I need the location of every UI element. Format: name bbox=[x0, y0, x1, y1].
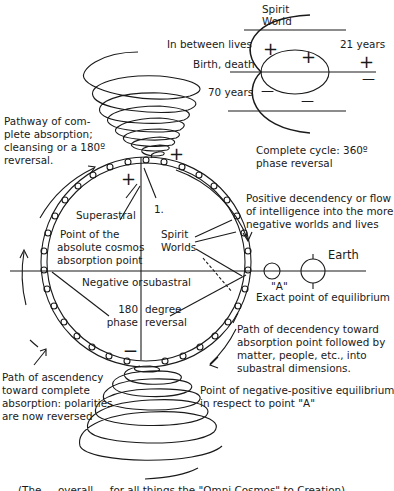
label-positive-decendency-2: of intelligence into the more bbox=[246, 205, 393, 218]
label-in-between-lives: In between lives bbox=[167, 38, 252, 51]
label-reversal: reversal bbox=[145, 316, 187, 329]
label-positive-decendency-3: negative worlds and lives bbox=[246, 218, 379, 231]
label-absolute-point-3: absorption point bbox=[57, 254, 142, 267]
label-subastral: subastral bbox=[143, 276, 191, 289]
label-path-ascendency-4: are now reversed bbox=[2, 410, 93, 423]
inset-life-cycle bbox=[228, 15, 376, 133]
label-path-decendency-1: Path of decendency toward bbox=[237, 323, 379, 336]
label-negative-or: Negative or bbox=[82, 276, 143, 289]
label-path-decendency-4: subastral dimensions. bbox=[237, 362, 351, 375]
label-path-decendency-3: matter, people, etc., into bbox=[237, 349, 367, 362]
label-path-ascendency-2: toward complete bbox=[2, 384, 90, 397]
label-superastral: Superastral bbox=[76, 209, 136, 222]
label-pathway-absorption-4: revrersal. bbox=[4, 154, 53, 167]
label-spirit-worlds-1: Spirit bbox=[161, 228, 188, 241]
label-earth: Earth bbox=[328, 249, 359, 262]
label-neg-pos-equilibrium-1: Point of negative-positive equilibrium bbox=[200, 384, 394, 397]
label-pathway-absorption-3: cleansing or a 180º bbox=[4, 141, 105, 154]
label-path-ascendency-3: absorption: polarities bbox=[2, 397, 112, 410]
plus-sign: + bbox=[169, 145, 184, 163]
plus-sign: + bbox=[263, 40, 278, 58]
label-180: 180 bbox=[100, 303, 138, 316]
figure-caption: (The ... overall ... for all things the … bbox=[18, 484, 388, 491]
label-pathway-absorption-2: plete absorption; bbox=[4, 128, 93, 141]
label-spirit-worlds-2: Worlds bbox=[161, 241, 196, 254]
plus-sign: + bbox=[301, 48, 316, 66]
label-neg-pos-equilibrium-2: in respect to point "A" bbox=[200, 397, 315, 410]
label-absolute-point-2: absolute cosmos bbox=[57, 241, 144, 254]
label-phase: phase bbox=[90, 316, 138, 329]
label-path-ascendency-1: Path of ascendency bbox=[2, 371, 103, 384]
label-path-decendency-2: absorption point followed by bbox=[237, 336, 385, 349]
label-birth-death: Birth, death bbox=[193, 58, 255, 71]
label-seventy-years: 70 years bbox=[208, 86, 253, 99]
label-degree: degree bbox=[145, 303, 181, 316]
label-positive-decendency-1: Positive decendency or flow bbox=[246, 192, 391, 205]
minus-sign: — bbox=[362, 70, 375, 88]
minus-sign: — bbox=[261, 82, 274, 100]
label-pathway-absorption-1: Pathway of com- bbox=[4, 115, 90, 128]
minus-sign: — bbox=[301, 92, 314, 110]
label-twentyone-years: 21 years bbox=[340, 38, 385, 51]
label-phase-reversal: phase reversal bbox=[256, 157, 333, 170]
label-spirit-world-2: World bbox=[262, 15, 292, 28]
minus-sign: — bbox=[124, 342, 137, 360]
label-absolute-point-1: Point of the bbox=[60, 228, 119, 241]
plus-sign: + bbox=[359, 53, 374, 71]
label-point-one: 1. bbox=[154, 203, 164, 216]
label-exact-equilibrium: Exact point of equilibrium bbox=[256, 291, 390, 304]
label-complete-cycle: Complete cycle: 360º bbox=[256, 144, 368, 157]
plus-sign: + bbox=[121, 170, 136, 188]
